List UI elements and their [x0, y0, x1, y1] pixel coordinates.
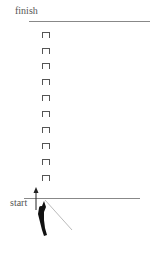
rope-line — [45, 200, 72, 230]
climber-diagram — [0, 0, 156, 254]
up-arrow-icon — [34, 187, 39, 210]
climber-figure-icon — [38, 201, 47, 236]
